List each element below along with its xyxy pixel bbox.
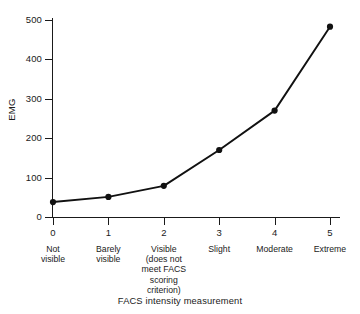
- y-axis-tick: [45, 138, 53, 139]
- y-axis-tick: [45, 178, 53, 179]
- x-axis-tick-label: 0: [38, 228, 68, 238]
- data-point: [272, 108, 278, 114]
- y-axis-tick-label: 200: [26, 133, 42, 143]
- y-axis-tick: [45, 217, 53, 218]
- x-axis-line: [52, 217, 340, 218]
- y-axis-tick-label: 0: [37, 212, 42, 222]
- x-axis-category-label: Not visible: [22, 244, 84, 264]
- x-axis-tick-label: 1: [93, 228, 123, 238]
- y-axis-tick: [45, 20, 53, 21]
- data-point: [105, 194, 111, 200]
- x-axis-tick: [164, 218, 165, 225]
- data-point: [50, 199, 56, 205]
- x-axis-category-label: Visible (does not meet FACS scoring crit…: [133, 244, 195, 295]
- y-axis-tick-label: 100: [26, 173, 42, 183]
- x-axis-tick: [275, 218, 276, 225]
- y-axis-line: [52, 18, 53, 218]
- x-axis-tick: [219, 218, 220, 225]
- y-axis-title: EMG: [6, 90, 17, 130]
- series-line-emg: [53, 27, 330, 202]
- chart-figure: EMG 0100200300400500 0Not visible1Barely…: [0, 0, 360, 314]
- x-axis-tick: [108, 218, 109, 225]
- x-axis-category-label: Extreme: [299, 244, 360, 254]
- x-axis-tick-label: 5: [315, 228, 345, 238]
- x-axis-tick-label: 4: [260, 228, 290, 238]
- y-axis-tick-label: 300: [26, 94, 42, 104]
- x-axis-category-label: Barely visible: [77, 244, 139, 264]
- x-axis-category-label: Slight: [188, 244, 250, 254]
- x-axis-tick-label: 2: [149, 228, 179, 238]
- y-axis-tick-label: 400: [26, 54, 42, 64]
- data-point: [161, 183, 167, 189]
- y-axis-tick-label: 500: [26, 15, 42, 25]
- y-axis-tick: [45, 99, 53, 100]
- x-axis-category-label: Moderate: [244, 244, 306, 254]
- x-axis-tick-label: 3: [204, 228, 234, 238]
- y-axis-tick: [45, 59, 53, 60]
- x-axis-tick: [53, 218, 54, 225]
- x-axis-title: FACS intensity measurement: [0, 296, 360, 306]
- data-point: [216, 147, 222, 153]
- series-markers-emg: [50, 24, 333, 206]
- data-point: [327, 24, 333, 30]
- x-axis-tick: [330, 218, 331, 225]
